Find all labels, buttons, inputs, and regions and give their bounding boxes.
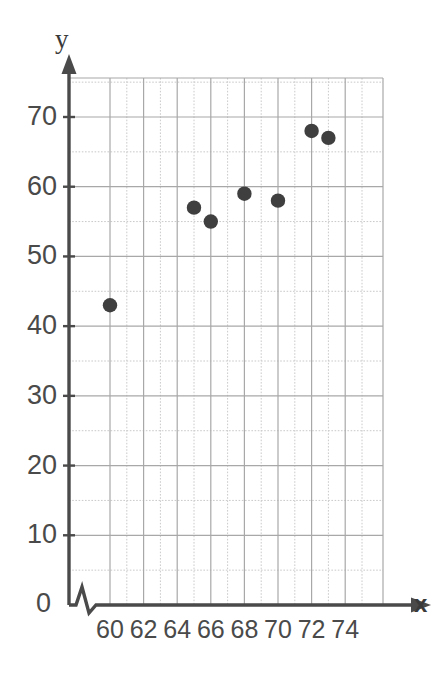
- y-tick-label: 60: [5, 173, 57, 200]
- plot-canvas: [0, 0, 447, 680]
- y-tick-label: 10: [5, 521, 57, 548]
- data-point: [187, 200, 201, 214]
- data-point: [304, 124, 318, 138]
- axis-lines: [62, 54, 432, 613]
- scatter-plot-figure: y x 0 10203040506070 6062646668707274: [0, 0, 447, 680]
- y-axis-arrowhead: [62, 54, 77, 74]
- y-tick-label: 70: [5, 103, 57, 130]
- data-point: [271, 193, 285, 207]
- data-point: [321, 131, 335, 145]
- y-axis-title: y: [55, 26, 69, 53]
- minor-gridlines: [69, 78, 383, 605]
- origin-tick-label: 0: [36, 590, 51, 617]
- major-gridlines: [69, 78, 383, 605]
- y-tick-label: 40: [5, 312, 57, 339]
- data-point: [237, 186, 251, 200]
- data-point: [204, 214, 218, 228]
- data-point: [103, 298, 117, 312]
- x-axis-line-with-break: [69, 587, 416, 613]
- y-tick-label: 50: [5, 242, 57, 269]
- y-tick-label: 20: [5, 452, 57, 479]
- x-tick-label: 74: [325, 617, 365, 642]
- y-tick-label: 30: [5, 382, 57, 409]
- x-axis-title: x: [414, 592, 427, 616]
